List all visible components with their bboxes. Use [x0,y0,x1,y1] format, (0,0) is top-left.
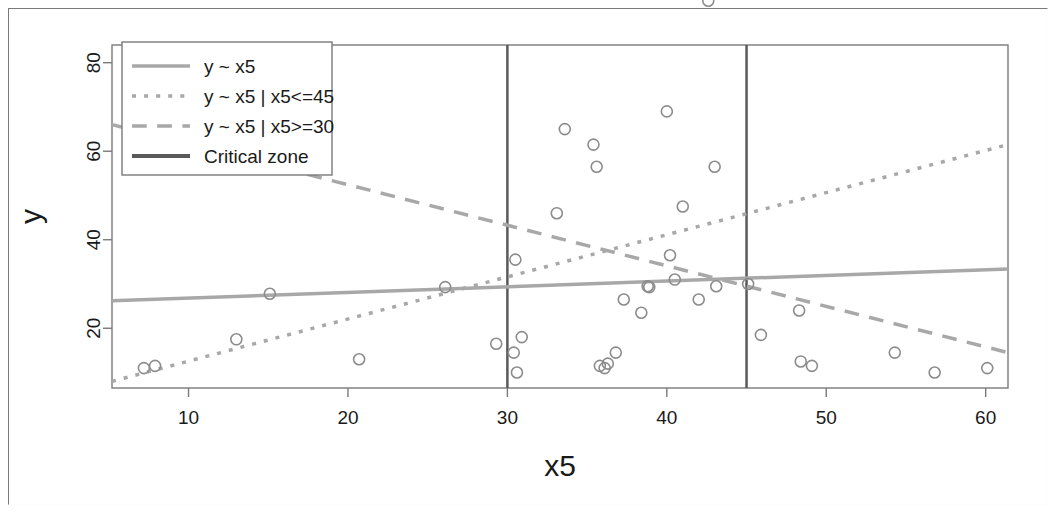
data-point [806,360,817,371]
legend-label-3: Critical zone [204,146,309,167]
data-point [794,305,805,316]
data-point [511,367,522,378]
x-tick-label: 60 [975,407,996,428]
y-tick-label: 20 [84,318,105,339]
data-point [150,360,161,371]
data-point [588,139,599,150]
data-point [709,161,720,172]
data-point [508,347,519,358]
data-point [677,201,688,212]
y-tick-label: 40 [84,229,105,250]
data-point [661,106,672,117]
y-axis-ticks: 20406080100 [84,0,113,339]
data-point [636,307,647,318]
data-point [703,0,714,6]
data-point [551,208,562,219]
data-point [516,332,527,343]
data-point [491,338,502,349]
regression-line-0 [112,269,1008,301]
data-point [231,334,242,345]
regression-line-1 [112,145,1008,382]
chart-canvas: 102030405060 20406080100 y ~ x5y ~ x5 | … [0,0,1054,513]
data-point [510,254,521,265]
x-axis-title: x5 [544,449,576,482]
y-axis-title: y [14,209,47,224]
data-point [618,294,629,305]
legend-label-0: y ~ x5 [204,56,255,77]
data-point [929,367,940,378]
legend-label-1: y ~ x5 | x5<=45 [204,86,334,107]
y-tick-label: 60 [84,141,105,162]
legend-label-2: y ~ x5 | x5>=30 [204,116,334,137]
data-point [354,354,365,365]
data-point [711,281,722,292]
data-point [610,347,621,358]
data-point [755,329,766,340]
x-axis-ticks: 102030405060 [178,388,996,428]
data-point [693,294,704,305]
chart-legend: y ~ x5y ~ x5 | x5<=45y ~ x5 | x5>=30Crit… [122,42,334,175]
data-point [665,250,676,261]
x-tick-label: 20 [337,407,358,428]
x-tick-label: 10 [178,407,199,428]
x-tick-label: 50 [816,407,837,428]
data-point [138,363,149,374]
data-point [889,347,900,358]
y-tick-label: 80 [84,52,105,73]
figure-root: 102030405060 20406080100 y ~ x5y ~ x5 | … [0,0,1054,513]
x-tick-label: 30 [497,407,518,428]
x-tick-label: 40 [656,407,677,428]
data-point [591,161,602,172]
scatter-chart: 102030405060 20406080100 y ~ x5y ~ x5 | … [0,0,1054,513]
data-point [559,124,570,135]
critical-zone-lines [507,45,746,388]
data-point [795,356,806,367]
data-point [982,363,993,374]
